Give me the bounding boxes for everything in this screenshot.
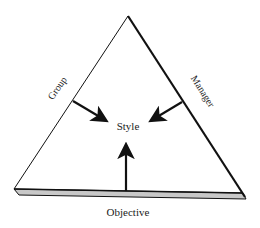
base-label-objective: Objective [107,206,150,218]
side-label-manager: Manager [189,73,218,110]
triangle-diagram: Style Group Manager Objective [0,0,260,228]
triangle-left-side [14,16,128,189]
group-to-style-arrow [73,101,105,120]
triangle-right-side [128,16,245,197]
center-label-style: Style [117,120,140,132]
side-label-group: Group [45,74,69,101]
manager-to-style-arrow [152,102,182,120]
